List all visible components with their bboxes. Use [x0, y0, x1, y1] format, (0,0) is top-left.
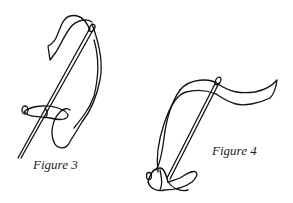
needle-ribbon-drawing-4 [140, 70, 293, 203]
figure-4-caption: Figure 4 [212, 143, 257, 159]
figure-3-caption: Figure 3 [33, 157, 78, 173]
needle-ribbon-drawing-3 [0, 0, 146, 160]
figure-4-illustration [140, 70, 293, 203]
figure-3-illustration [0, 0, 146, 160]
